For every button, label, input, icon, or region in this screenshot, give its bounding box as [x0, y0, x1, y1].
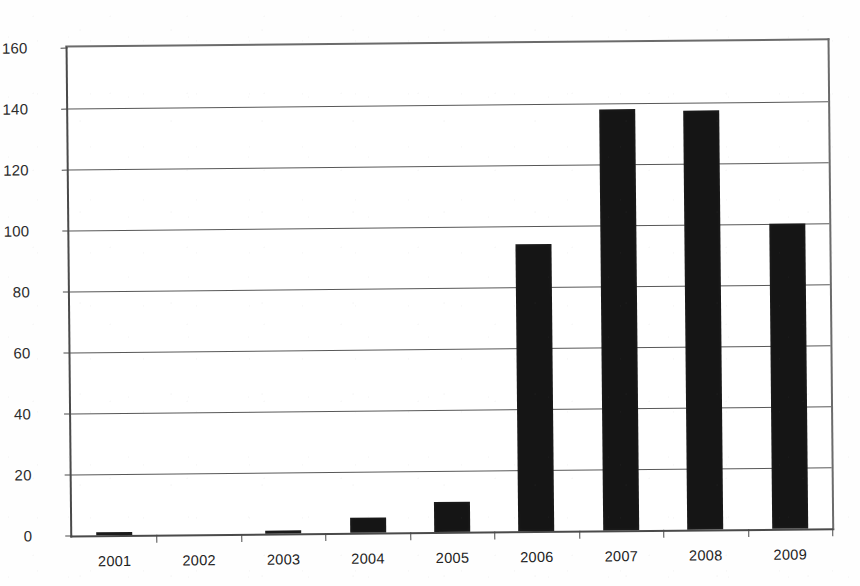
- y-axis-tick-label: 120: [0, 161, 29, 179]
- plot-skew-wrapper: 020406080100120140160 200120022003200420…: [0, 0, 860, 586]
- y-axis-tick-mark: [63, 292, 70, 293]
- bar-slot: [659, 41, 748, 530]
- bar-slot: [68, 47, 157, 536]
- bar: [599, 109, 639, 530]
- bar: [516, 244, 555, 531]
- x-axis-tick-mark: [579, 531, 580, 539]
- plot-area: 020406080100120140160 200120022003200420…: [66, 38, 835, 537]
- bar-slot: [574, 42, 663, 531]
- x-axis-tick-mark: [241, 534, 242, 542]
- y-axis-tick-label: 160: [0, 39, 28, 57]
- y-axis-tick-mark: [65, 536, 72, 537]
- x-axis-tick-label: 2003: [239, 551, 329, 568]
- bar: [350, 517, 386, 533]
- bar-slot: [743, 40, 832, 529]
- y-axis-tick-mark: [61, 48, 68, 49]
- bar: [265, 530, 301, 533]
- x-axis-tick-label: 2009: [745, 546, 835, 563]
- y-axis-tick-label: 140: [0, 100, 28, 118]
- x-axis-tick-label: 2007: [576, 548, 666, 565]
- bar: [684, 110, 724, 530]
- bar-slot: [321, 44, 410, 533]
- x-axis-tick-mark: [157, 535, 158, 543]
- x-axis-tick-label: 2005: [407, 549, 497, 566]
- bar-slot: [152, 46, 241, 535]
- y-axis-tick-label: 100: [0, 222, 29, 240]
- y-axis-tick-mark: [64, 414, 71, 415]
- bar-chart-figure: 020406080100120140160 200120022003200420…: [0, 0, 860, 586]
- bar: [96, 532, 132, 535]
- y-axis-tick-label: 80: [0, 283, 30, 301]
- x-axis-tick-mark: [832, 528, 833, 536]
- x-axis-tick-label: 2002: [154, 552, 244, 569]
- bar-slot: [405, 44, 494, 533]
- x-axis-tick-mark: [494, 531, 495, 539]
- bar-slot: [490, 43, 579, 532]
- y-axis-tick-label: 0: [0, 527, 32, 545]
- y-axis-tick-mark: [61, 109, 68, 110]
- x-axis-tick-mark: [326, 533, 327, 541]
- x-axis-tick-label: 2001: [70, 553, 160, 570]
- x-axis-tick-label: 2004: [323, 550, 413, 567]
- y-axis-tick-label: 20: [0, 466, 32, 484]
- x-axis-tick-mark: [748, 529, 749, 537]
- bars-group: [68, 40, 833, 535]
- x-axis-tick-label: 2008: [661, 547, 751, 564]
- y-axis-tick-mark: [62, 231, 69, 232]
- x-axis-tick-label: 2006: [492, 549, 582, 566]
- y-axis-tick-mark: [62, 170, 69, 171]
- y-axis-tick-mark: [63, 353, 70, 354]
- x-axis-tick-mark: [663, 530, 664, 538]
- bar: [434, 501, 470, 532]
- y-axis-tick-mark: [65, 475, 72, 476]
- bar-slot: [236, 45, 325, 534]
- y-axis-tick-label: 60: [0, 344, 31, 362]
- bar: [769, 223, 808, 528]
- y-axis-tick-label: 40: [0, 405, 31, 423]
- x-axis-tick-mark: [410, 532, 411, 540]
